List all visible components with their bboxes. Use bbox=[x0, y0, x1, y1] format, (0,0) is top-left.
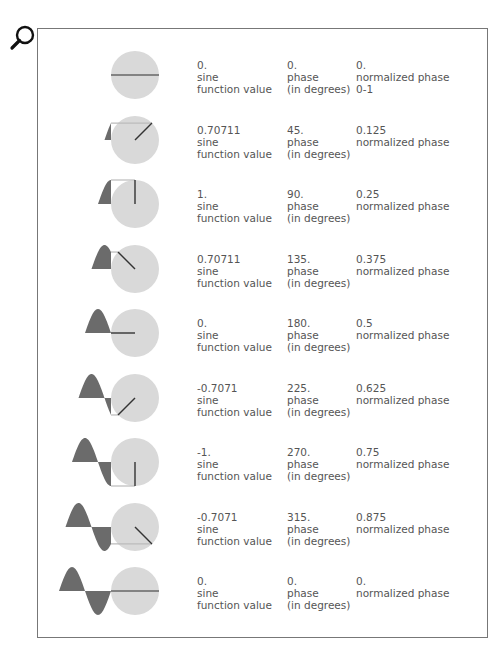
in-degrees-label: (in degrees) bbox=[287, 148, 350, 160]
phase-circle-figure bbox=[38, 172, 198, 236]
normalized-value: 0.5 bbox=[356, 317, 449, 329]
function-value-label: function value bbox=[197, 277, 272, 289]
sine-value-column: 0.70711sinefunction value bbox=[197, 253, 272, 289]
phase-label: phase bbox=[287, 523, 350, 535]
phase-label: phase bbox=[287, 587, 350, 599]
in-degrees-label: (in degrees) bbox=[287, 599, 350, 611]
normalized-column: 0.375normalized phase bbox=[356, 253, 449, 277]
normalized-column: 0.normalized phase0-1 bbox=[356, 59, 449, 95]
sine-value: 0. bbox=[197, 575, 272, 587]
search-icon bbox=[8, 24, 36, 52]
phase-row: 0.sinefunction value0.phase(in degrees)0… bbox=[38, 43, 489, 107]
phase-column: 0.phase(in degrees) bbox=[287, 59, 350, 95]
normalized-label: normalized phase bbox=[356, 200, 449, 212]
phase-value: 0. bbox=[287, 575, 350, 587]
sine-wave bbox=[92, 245, 112, 269]
normalized-value: 0.125 bbox=[356, 124, 449, 136]
in-degrees-label: (in degrees) bbox=[287, 277, 350, 289]
phase-row: 0.70711sinefunction value45.phase(in deg… bbox=[38, 108, 489, 172]
in-degrees-label: (in degrees) bbox=[287, 341, 350, 353]
normalized-column: 0.625normalized phase bbox=[356, 382, 449, 406]
in-degrees-label: (in degrees) bbox=[287, 470, 350, 482]
normalized-column: 0.normalized phase bbox=[356, 575, 449, 599]
phase-label: phase bbox=[287, 200, 350, 212]
phase-value: 135. bbox=[287, 253, 350, 265]
phase-circle-figure bbox=[38, 366, 198, 430]
function-value-label: function value bbox=[197, 406, 272, 418]
normalized-label: normalized phase bbox=[356, 458, 449, 470]
normalized-label: normalized phase bbox=[356, 265, 449, 277]
phase-circle-figure bbox=[38, 43, 198, 107]
sine-label: sine bbox=[197, 523, 272, 535]
in-degrees-label: (in degrees) bbox=[287, 535, 350, 547]
in-degrees-label: (in degrees) bbox=[287, 83, 350, 95]
phase-value: 270. bbox=[287, 446, 350, 458]
phase-row: -0.7071sinefunction value225.phase(in de… bbox=[38, 366, 489, 430]
sine-wave bbox=[85, 309, 111, 333]
normalized-column: 0.25normalized phase bbox=[356, 188, 449, 212]
normalized-label: normalized phase bbox=[356, 136, 449, 148]
normalized-column: 0.75normalized phase bbox=[356, 446, 449, 470]
sine-value-column: -0.7071sinefunction value bbox=[197, 382, 272, 418]
phase-row: 0.70711sinefunction value135.phase(in de… bbox=[38, 237, 489, 301]
sine-label: sine bbox=[197, 329, 272, 341]
function-value-label: function value bbox=[197, 535, 272, 547]
phase-circle-figure bbox=[38, 301, 198, 365]
phase-row: 0.sinefunction value0.phase(in degrees)0… bbox=[38, 559, 489, 623]
normalized-value: 0.875 bbox=[356, 511, 449, 523]
function-value-label: function value bbox=[197, 470, 272, 482]
sine-label: sine bbox=[197, 71, 272, 83]
phase-column: 225.phase(in degrees) bbox=[287, 382, 350, 418]
phase-column: 270.phase(in degrees) bbox=[287, 446, 350, 482]
phase-circle-figure bbox=[38, 430, 198, 494]
phase-row: -0.7071sinefunction value315.phase(in de… bbox=[38, 495, 489, 559]
sine-value-column: 0.sinefunction value bbox=[197, 59, 272, 95]
normalized-label: normalized phase bbox=[356, 394, 449, 406]
function-value-label: function value bbox=[197, 148, 272, 160]
normalized-label: normalized phase bbox=[356, 587, 449, 599]
sine-wave bbox=[72, 438, 111, 486]
phase-value: 90. bbox=[287, 188, 350, 200]
normalized-value: 0.75 bbox=[356, 446, 449, 458]
sine-value-column: -1.sinefunction value bbox=[197, 446, 272, 482]
phase-row: 0.sinefunction value180.phase(in degrees… bbox=[38, 301, 489, 365]
range-note: 0-1 bbox=[356, 83, 449, 95]
normalized-value: 0. bbox=[356, 59, 449, 71]
in-degrees-label: (in degrees) bbox=[287, 406, 350, 418]
normalized-label: normalized phase bbox=[356, 523, 449, 535]
phase-column: 90.phase(in degrees) bbox=[287, 188, 350, 224]
phase-label: phase bbox=[287, 329, 350, 341]
sine-value: -0.7071 bbox=[197, 511, 272, 523]
phase-value: 180. bbox=[287, 317, 350, 329]
sine-value: 0.70711 bbox=[197, 253, 272, 265]
sine-value: -0.7071 bbox=[197, 382, 272, 394]
sine-value-column: 0.70711sinefunction value bbox=[197, 124, 272, 160]
phase-label: phase bbox=[287, 136, 350, 148]
sine-value: -1. bbox=[197, 446, 272, 458]
normalized-value: 0.625 bbox=[356, 382, 449, 394]
in-degrees-label: (in degrees) bbox=[287, 212, 350, 224]
function-value-label: function value bbox=[197, 83, 272, 95]
phase-value: 0. bbox=[287, 59, 350, 71]
phase-value: 225. bbox=[287, 382, 350, 394]
normalized-column: 0.5normalized phase bbox=[356, 317, 449, 341]
normalized-value: 0. bbox=[356, 575, 449, 587]
sine-value-column: 1.sinefunction value bbox=[197, 188, 272, 224]
sine-label: sine bbox=[197, 458, 272, 470]
normalized-column: 0.875normalized phase bbox=[356, 511, 449, 535]
phase-column: 135.phase(in degrees) bbox=[287, 253, 350, 289]
normalized-label: normalized phase bbox=[356, 329, 449, 341]
sine-value: 1. bbox=[197, 188, 272, 200]
phase-column: 180.phase(in degrees) bbox=[287, 317, 350, 353]
normalized-value: 0.25 bbox=[356, 188, 449, 200]
phase-column: 315.phase(in degrees) bbox=[287, 511, 350, 547]
phase-label: phase bbox=[287, 458, 350, 470]
function-value-label: function value bbox=[197, 599, 272, 611]
normalized-value: 0.375 bbox=[356, 253, 449, 265]
sine-label: sine bbox=[197, 265, 272, 277]
phase-circle-figure bbox=[38, 495, 198, 559]
phase-column: 45.phase(in degrees) bbox=[287, 124, 350, 160]
sine-wave bbox=[105, 123, 112, 140]
function-value-label: function value bbox=[197, 341, 272, 353]
phase-column: 0.phase(in degrees) bbox=[287, 575, 350, 611]
